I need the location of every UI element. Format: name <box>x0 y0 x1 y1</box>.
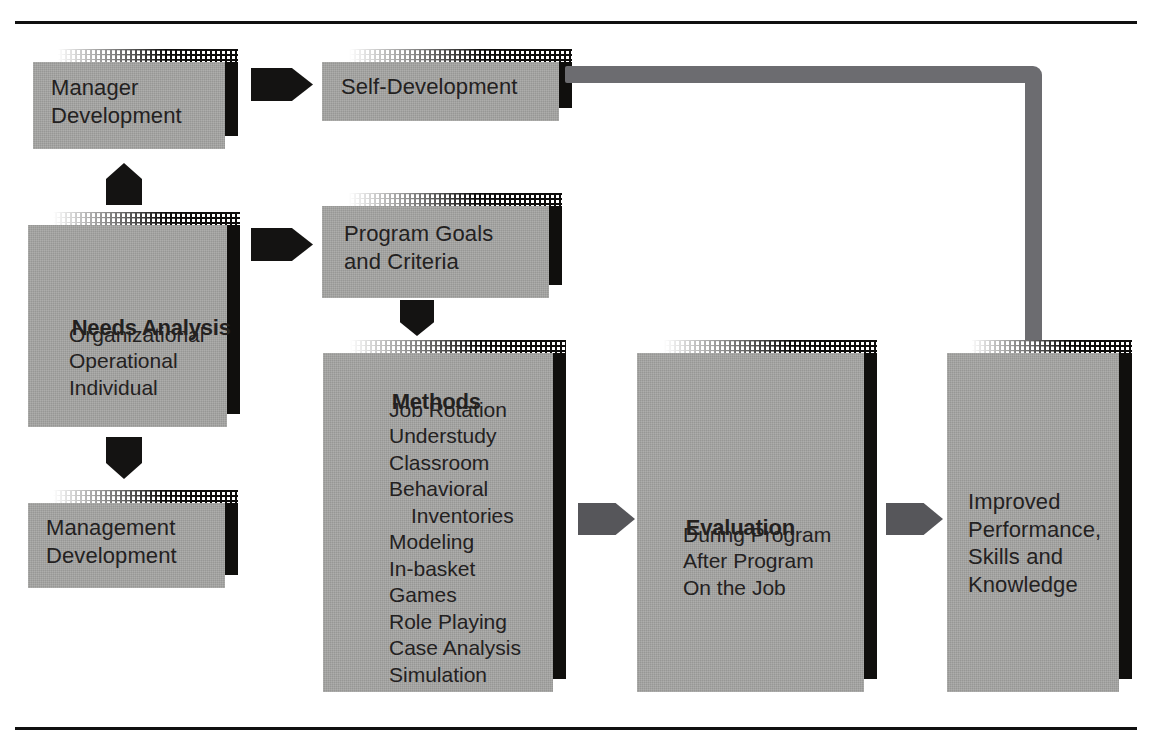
node-program-goals[interactable]: Program Goalsand Criteria <box>322 193 562 298</box>
node-line-3: Individual <box>69 376 158 399</box>
node-line-2: Operational <box>69 349 178 372</box>
arrow-methods-to-evaluation <box>578 503 635 535</box>
list-item: Case Analysis <box>389 636 521 659</box>
node-line-2: Development <box>51 103 182 128</box>
arrow-evaluation-to-improved-results <box>886 503 943 535</box>
node-label: ImprovedPerformance,Skills andKnowledge <box>968 488 1101 599</box>
arrow-right-icon <box>578 503 635 535</box>
arrow-right-icon <box>251 68 313 101</box>
arrow-needs-analysis-to-management-development <box>106 437 142 479</box>
arrow-right-icon <box>251 228 313 261</box>
node-label: Program Goalsand Criteria <box>344 220 493 275</box>
node-line-1: Management <box>46 515 175 540</box>
node-list: During ProgramAfter ProgramOn the Job <box>659 522 831 601</box>
node-line-1: Program Goals <box>344 221 493 246</box>
node-needs-analysis[interactable]: Needs Analysis OrganizationalOperational… <box>28 212 240 427</box>
halftone-top-strip <box>650 340 877 353</box>
node-management-development[interactable]: ManagementDevelopment <box>28 490 238 588</box>
list-item: Role Playing <box>389 610 507 633</box>
halftone-top-strip <box>335 193 562 206</box>
node-improved-results[interactable]: ImprovedPerformance,Skills andKnowledge <box>947 340 1132 692</box>
node-line-2: Development <box>46 543 177 568</box>
node-evaluation[interactable]: Evaluation During ProgramAfter ProgramOn… <box>637 340 877 692</box>
arrow-manager-to-self-development <box>251 68 313 101</box>
node-line-1: Organizational <box>69 323 204 346</box>
list-item: Classroom <box>389 451 489 474</box>
node-label: OrganizationalOperationalIndividual <box>45 322 204 401</box>
arrow-program-goals-to-methods <box>400 300 434 336</box>
node-self-development[interactable]: Self-Development <box>322 49 572 121</box>
arrow-needs-analysis-to-manager-development <box>106 163 142 205</box>
node-manager-development[interactable]: ManagerDevelopment <box>33 49 238 149</box>
node-line-1: Self-Development <box>341 74 517 99</box>
arrow-up-icon <box>106 163 142 205</box>
list-item: Modeling <box>389 530 474 553</box>
node-line-1: Manager <box>51 75 139 100</box>
halftone-top-strip <box>41 490 238 503</box>
list-item: Job Rotation <box>389 398 507 421</box>
connector-horizontal-segment <box>565 66 1025 83</box>
list-item: Simulation <box>389 663 487 686</box>
connector-self-development-to-improved <box>565 66 1052 356</box>
halftone-top-strip <box>960 340 1132 353</box>
list-item: Behavioral <box>389 477 488 500</box>
arrow-needs-analysis-to-program-goals <box>251 228 313 261</box>
halftone-top-strip <box>336 340 566 353</box>
node-list: Job RotationUnderstudyClassroomBehaviora… <box>365 397 521 688</box>
arrow-right-icon <box>886 503 943 535</box>
connector-vertical-segment <box>1025 80 1042 342</box>
list-item: After Program <box>683 549 814 572</box>
top-divider-rule <box>15 21 1137 24</box>
list-item: Games <box>389 583 457 606</box>
halftone-top-strip <box>46 49 238 62</box>
list-item: Inventories <box>389 504 514 527</box>
node-line-3: Skills and <box>968 544 1063 569</box>
node-label: ManagementDevelopment <box>46 514 177 569</box>
node-line-2: and Criteria <box>344 249 459 274</box>
node-label: Self-Development <box>341 73 517 101</box>
halftone-top-strip <box>335 49 572 62</box>
arrow-down-icon <box>400 300 434 336</box>
node-label: ManagerDevelopment <box>51 74 182 129</box>
node-line-4: Knowledge <box>968 572 1078 597</box>
list-item: During Program <box>683 523 831 546</box>
halftone-top-strip <box>41 212 240 225</box>
list-item: On the Job <box>683 576 786 599</box>
node-line-1: Improved <box>968 489 1061 514</box>
arrow-down-icon <box>106 437 142 479</box>
node-line-2: Performance, <box>968 517 1101 542</box>
list-item: Understudy <box>389 424 496 447</box>
node-methods[interactable]: Methods Job RotationUnderstudyClassroomB… <box>323 340 566 692</box>
bottom-divider-rule <box>15 727 1137 730</box>
list-item: In-basket <box>389 557 475 580</box>
diagram-canvas: ManagerDevelopment Self-Development Need… <box>0 0 1150 743</box>
